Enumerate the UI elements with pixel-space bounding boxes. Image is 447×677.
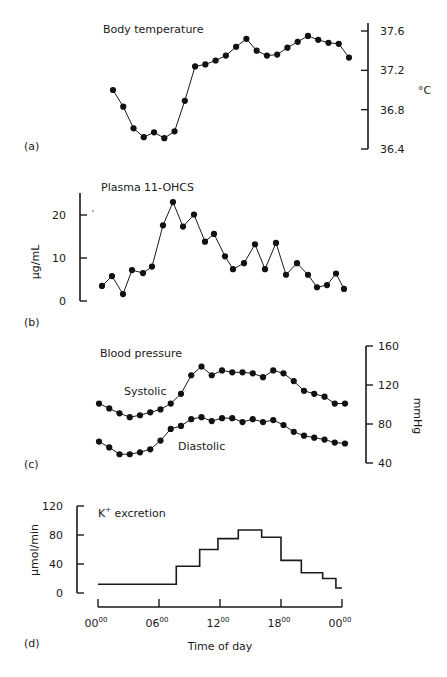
data-point — [250, 370, 256, 376]
data-point — [182, 98, 188, 104]
data-point — [229, 415, 235, 421]
data-point — [333, 270, 339, 276]
data-point — [294, 260, 300, 266]
panel-d-k-excretion: K+ excretion (d) µmol/min Time of day 04… — [24, 500, 351, 653]
data-point — [96, 438, 102, 444]
systolic-label: Systolic — [124, 385, 166, 398]
y-tick-label: 40 — [49, 558, 63, 571]
tick-label: 37.6 — [380, 25, 405, 38]
panel-c-y-axis: 4080120160 — [366, 340, 399, 470]
panel-d-step-line — [98, 530, 342, 588]
panel-a-line — [110, 33, 352, 141]
diastolic-label: Diastolic — [178, 440, 225, 453]
data-point — [116, 451, 122, 457]
data-point — [202, 239, 208, 245]
y-tick-label: 80 — [49, 529, 63, 542]
stray-dot — [92, 210, 94, 212]
data-point — [188, 372, 194, 378]
tick-label: 160 — [378, 340, 399, 353]
data-point — [191, 211, 197, 217]
data-point — [315, 37, 321, 43]
data-point — [264, 52, 270, 58]
tick-label: 0 — [59, 295, 66, 308]
data-point — [219, 367, 225, 373]
data-point — [230, 266, 236, 272]
data-point — [223, 52, 229, 58]
data-point — [141, 134, 147, 140]
data-point — [106, 405, 112, 411]
panel-d-axes: 0408012000000600120018000000 — [42, 500, 351, 630]
data-point — [301, 388, 307, 394]
data-point — [202, 61, 208, 67]
data-point — [284, 45, 290, 51]
tick-label: 120 — [378, 379, 399, 392]
tick-label: 36.8 — [380, 104, 405, 117]
data-point — [147, 409, 153, 415]
data-point — [239, 369, 245, 375]
data-point — [213, 57, 219, 63]
data-point — [311, 435, 317, 441]
data-point — [314, 284, 320, 290]
data-point — [346, 54, 352, 60]
data-point — [147, 446, 153, 452]
data-point — [137, 449, 143, 455]
data-point — [342, 440, 348, 446]
data-point — [260, 374, 266, 380]
data-point — [180, 224, 186, 230]
data-point — [239, 419, 245, 425]
data-point — [188, 416, 194, 422]
y-tick-label: 120 — [42, 500, 63, 513]
data-point — [161, 135, 167, 141]
data-point — [311, 391, 317, 397]
data-point — [321, 394, 327, 400]
data-point — [295, 39, 301, 45]
data-point — [233, 44, 239, 50]
data-point — [270, 417, 276, 423]
panel-b-y-axis: 01020 — [52, 193, 87, 308]
tick-label: 80 — [378, 418, 392, 431]
data-point — [250, 416, 256, 422]
panel-b-plasma-11-ohcs: Plasma 11-OHCS (b) µg/mL 01020 — [24, 181, 347, 329]
panel-c-label: (c) — [24, 458, 39, 471]
data-point — [273, 240, 279, 246]
data-point — [129, 267, 135, 273]
tick-label: 10 — [52, 252, 66, 265]
data-point — [198, 363, 204, 369]
panel-b-unit: µg/mL — [29, 244, 42, 279]
x-tick-label: 1800 — [268, 616, 291, 630]
data-point — [168, 400, 174, 406]
data-point — [274, 52, 280, 58]
panel-d-unit: µmol/min — [28, 524, 41, 576]
panel-d-label: (d) — [24, 637, 40, 650]
data-point — [283, 272, 289, 278]
data-point — [96, 400, 102, 406]
data-point — [305, 272, 311, 278]
data-point — [332, 439, 338, 445]
data-point — [260, 419, 266, 425]
data-point — [198, 414, 204, 420]
panel-b-title: Plasma 11-OHCS — [101, 181, 194, 194]
data-point — [157, 406, 163, 412]
data-point — [209, 372, 215, 378]
data-point — [229, 369, 235, 375]
data-point — [342, 400, 348, 406]
panel-c-title: Blood pressure — [100, 347, 182, 360]
tick-label: 37.2 — [380, 64, 405, 77]
x-tick-label: 1200 — [207, 616, 230, 630]
y-tick-label: 0 — [56, 587, 63, 600]
data-point — [130, 125, 136, 131]
data-point — [157, 437, 163, 443]
data-point — [120, 291, 126, 297]
data-point — [178, 423, 184, 429]
data-point — [171, 128, 177, 134]
x-tick-label: 0000 — [85, 616, 108, 630]
data-point — [291, 429, 297, 435]
panel-b-line — [99, 199, 347, 297]
data-point — [321, 437, 327, 443]
data-point — [110, 87, 116, 93]
panel-b-label: (b) — [24, 316, 40, 329]
panel-d-title: K+ excretion — [98, 506, 166, 520]
x-tick-label: 0000 — [329, 616, 352, 630]
tick-label: 40 — [378, 457, 392, 470]
data-point — [305, 33, 311, 39]
